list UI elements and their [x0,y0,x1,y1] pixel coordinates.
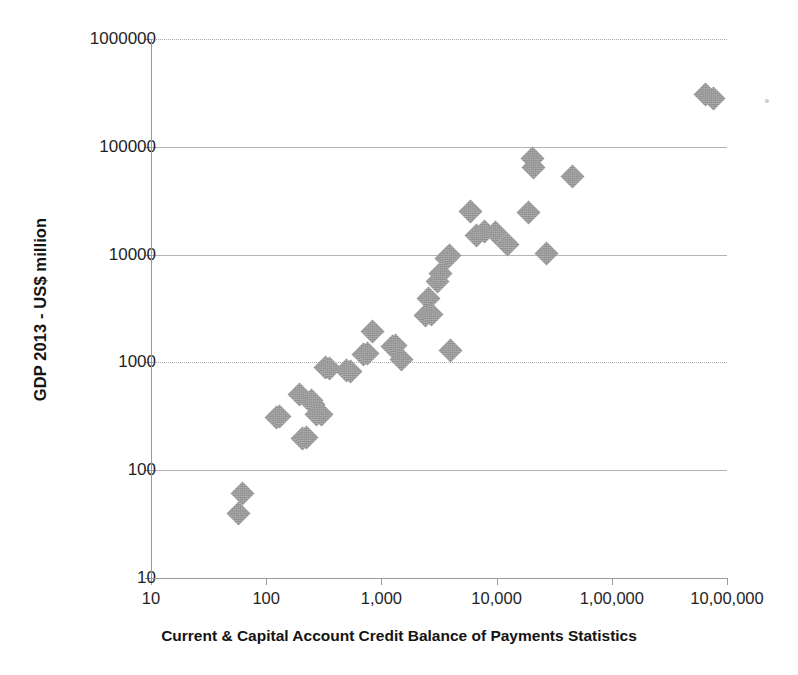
x-tick-label: 10,000 [471,589,521,608]
data-point-marker [561,164,585,188]
x-axis-line [151,578,727,579]
data-point-marker [517,201,541,225]
x-tick [612,578,613,585]
x-tick-label: 10,00,000 [690,589,763,608]
data-point-marker [438,338,462,362]
y-axis-title: GDP 2013 - US$ million [31,100,50,520]
x-tick [497,578,498,585]
data-point-marker [227,501,251,525]
gridline-y [151,470,727,471]
x-tick-label: 100 [252,589,280,608]
x-tick [266,578,267,585]
gridline-y [151,362,727,363]
y-axis-line [151,39,152,578]
x-axis-title: Current & Capital Account Credit Balance… [0,627,798,645]
gridline-y [151,39,727,40]
x-tick [727,578,728,585]
y-tick-label: 100000 [99,137,156,157]
data-point-marker [534,241,558,265]
scan-artifact: • [760,92,774,110]
x-tick-label: 1,00,000 [580,589,644,608]
x-tick [381,578,382,585]
data-point-marker [360,319,384,343]
x-tick-label: 1,000 [361,589,402,608]
y-tick-label: 1000000 [90,29,156,49]
scatter-chart: GDP 2013 - US$ million Current & Capital… [0,0,798,675]
data-point-marker [458,200,482,224]
data-point-marker [230,481,254,505]
x-tick-label: 10 [142,589,160,608]
gridline-y [151,147,727,148]
y-tick-label: 10000 [109,245,156,265]
